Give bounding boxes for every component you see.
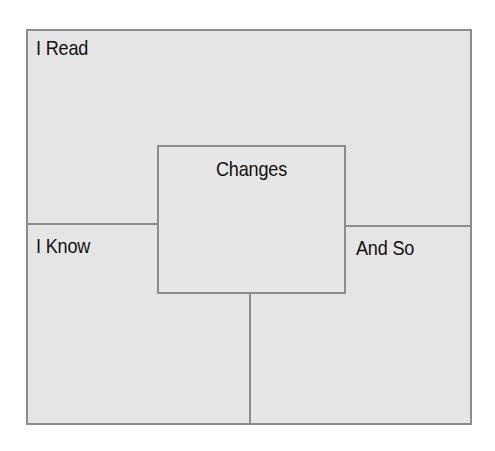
divider-left-horizontal (27, 223, 158, 225)
label-and-so: And So (356, 236, 414, 260)
label-changes: Changes (172, 157, 331, 181)
label-i-know: I Know (36, 234, 90, 258)
divider-right-horizontal (345, 225, 471, 227)
section-changes: Changes (157, 145, 346, 294)
divider-bottom-vertical (249, 293, 251, 424)
label-i-read: I Read (36, 36, 88, 60)
